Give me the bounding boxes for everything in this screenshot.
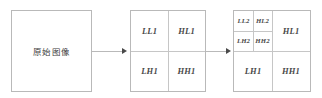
level1-subband-lh1-label: LH1: [141, 67, 158, 76]
level1-decomposition-block: LL1 HL1 LH1 HH1: [130, 10, 206, 92]
level1-subband-ll1: LL1: [131, 11, 168, 51]
source-image-label: 原始图像: [33, 45, 71, 57]
level2-subband-lh1-label: LH1: [245, 67, 262, 76]
level2-subband-lh2-label: LH2: [237, 38, 250, 45]
level1-subband-ll1-label: LL1: [142, 27, 157, 36]
arrow-level1-to-level2-icon: [226, 48, 231, 54]
level2-subband-hh2-label: HH2: [255, 38, 269, 45]
level2-subband-ll2-label: LL2: [237, 18, 249, 25]
wavelet-decomposition-diagram: 原始图像 LL1 HL1 LH1 HH1 LL2 HL2: [0, 0, 322, 98]
level2-subband-hl1: HL1: [272, 11, 310, 51]
level1-subband-lh1: LH1: [131, 51, 168, 91]
level1-subband-hl1-label: HL1: [178, 27, 195, 36]
level1-subband-hh1-label: HH1: [177, 67, 195, 76]
level2-subband-hl2: HL2: [253, 11, 272, 31]
level2-subband-hl2-label: HL2: [256, 18, 269, 25]
level2-subband-hh1: HH1: [272, 51, 310, 91]
source-image-box: 原始图像: [11, 10, 92, 92]
arrow-source-to-level1-line: [92, 51, 124, 52]
level2-subband-hl1-label: HL1: [283, 27, 300, 36]
level2-subband-lh1: LH1: [234, 51, 272, 91]
level2-subband-ll2: LL2: [234, 11, 253, 31]
level2-decomposition-block: LL2 HL2 LH2 HH2 HL1 LH1 HH1: [233, 10, 311, 92]
level1-subband-hh1: HH1: [168, 51, 205, 91]
level2-subband-hh1-label: HH1: [282, 67, 300, 76]
level2-subband-hh2: HH2: [253, 31, 272, 51]
arrow-source-to-level1-icon: [122, 48, 127, 54]
level1-subband-hl1: HL1: [168, 11, 205, 51]
level2-subband-lh2: LH2: [234, 31, 253, 51]
arrow-level1-to-level2-line: [206, 51, 228, 52]
